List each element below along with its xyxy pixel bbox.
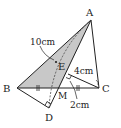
label-4cm: 4cm [74,66,94,76]
geometry-diagram: A B C M D E 10cm 4cm 2cm [0,0,121,128]
label-m: M [58,91,67,101]
label-2cm: 2cm [70,100,90,110]
label-a: A [85,7,94,18]
label-d: D [45,112,53,123]
label-10cm: 10cm [30,37,55,47]
point-e [55,61,57,63]
label-e: E [58,61,65,72]
pointer-2cm [70,81,77,99]
label-b: B [3,83,10,94]
right-angle-f [66,76,72,80]
label-c: C [102,83,110,94]
diagram-svg: A B C M D E 10cm 4cm 2cm [0,0,121,128]
segment-bd [17,88,49,108]
segment-ac [91,20,99,88]
